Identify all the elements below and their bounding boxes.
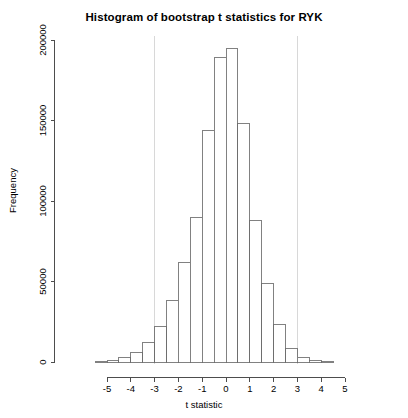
x-tick-label: -4 [127,383,135,394]
x-tick-label: -1 [198,383,206,394]
histogram-bar [309,361,321,362]
histogram-bar [250,220,262,362]
x-tick-label: -3 [150,383,158,394]
histogram-bar [214,58,226,362]
histogram-plot: Histogram of bootstrap t statistics for … [0,0,408,418]
x-tick-label: 0 [223,383,228,394]
y-tick-label: 50000 [37,268,48,294]
histogram-bar [190,217,202,362]
histogram-bar [274,325,286,362]
x-tick-label: 2 [271,383,276,394]
histogram-bar [143,343,155,362]
x-tick-label: 3 [295,383,300,394]
histogram-bar [262,283,274,362]
histogram-bar [119,358,131,362]
histogram-bar [107,361,119,362]
histogram-bar [238,124,250,362]
histogram-bar [178,262,190,362]
y-tick-label: 150000 [37,105,48,137]
histogram-bar [286,348,298,362]
x-tick-label: 4 [319,383,324,394]
histogram-bar [167,301,179,362]
histogram-bar [297,357,309,362]
y-tick-label: 200000 [37,24,48,56]
y-tick-label: 0 [37,359,48,364]
histogram-bar [155,327,167,362]
plot-canvas: 050000100000150000200000 -5-4-3-2-101234… [0,0,408,418]
histogram-bar [202,130,214,362]
x-tick-label: -5 [103,383,111,394]
x-axis: -5-4-3-2-1012345 [103,378,348,394]
histogram-bar [95,362,107,363]
y-tick-label: 100000 [37,185,48,217]
histogram-bar [226,48,238,362]
histogram-bar [131,352,143,362]
x-tick-label: 5 [342,383,347,394]
x-tick-label: -2 [174,383,182,394]
y-axis: 050000100000150000200000 [37,24,55,365]
histogram-bar [321,362,333,363]
x-tick-label: 1 [247,383,252,394]
